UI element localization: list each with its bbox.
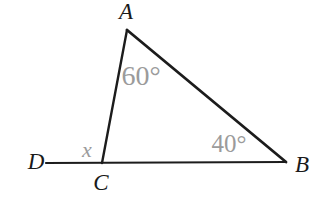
line-d-to-b xyxy=(46,162,286,163)
angle-label-60: 60° xyxy=(121,62,160,90)
angle-label-x: x xyxy=(82,139,92,161)
triangle-figure xyxy=(0,0,318,200)
vertex-label-c: C xyxy=(93,171,108,194)
side-c-a xyxy=(102,30,127,163)
side-b-a xyxy=(127,30,286,162)
vertex-label-a: A xyxy=(119,0,133,23)
vertex-label-b: B xyxy=(295,153,309,176)
vertex-label-d: D xyxy=(28,150,45,173)
angle-label-40: 40° xyxy=(212,131,247,156)
geometry-diagram: A B C D 60° 40° x xyxy=(0,0,318,200)
